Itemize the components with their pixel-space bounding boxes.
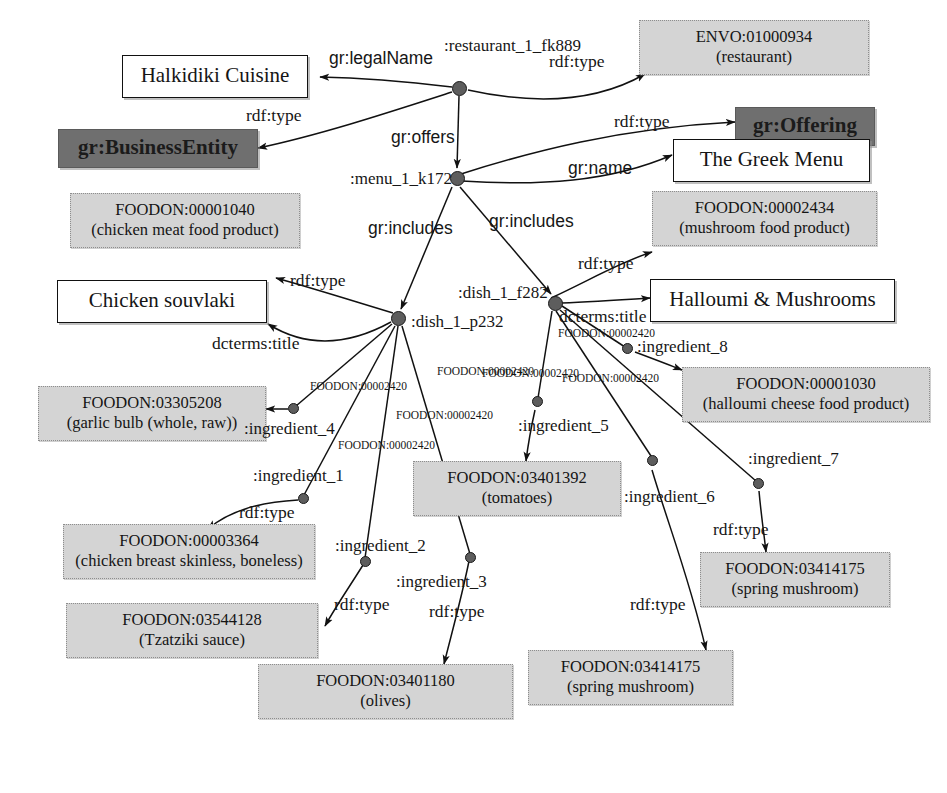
node-label-line2: (garlic bulb (whole, raw)) <box>49 413 255 433</box>
node-label-line1: Chicken souvlaki <box>72 288 252 314</box>
label-ingredient-5-id: :ingredient_5 <box>518 416 609 436</box>
label-ingredient-8-id: :ingredient_8 <box>637 337 728 357</box>
node-label-line1: FOODON:00001030 <box>693 374 919 394</box>
label-rdf-type-mushroom-product: rdf:type <box>578 253 633 274</box>
node-label-line1: FOODON:03305208 <box>49 393 255 413</box>
label-has-ingredient-f282-c: FOODON:00002420 <box>562 372 659 384</box>
bnode-menu[interactable] <box>450 171 465 186</box>
node-label-line1: ENVO:01000934 <box>650 27 858 47</box>
bnode-ingredient-5[interactable] <box>532 396 543 407</box>
label-ingredient-1-id: :ingredient_1 <box>253 466 344 486</box>
label-dcterms-title-souvlaki: dcterms:title <box>212 333 299 354</box>
edge-gr-name <box>462 155 672 183</box>
node-label-line1: FOODON:03414175 <box>711 559 879 579</box>
edge-rdf-type-restaurant <box>468 74 645 99</box>
spoke-f282-ingredient5 <box>538 311 552 398</box>
label-ingredient-4-id: :ingredient_4 <box>244 419 335 439</box>
rdf-graph-canvas: Halkidiki Cuisine ENVO:01000934 (restaur… <box>0 0 947 793</box>
node-label-line1: FOODON:03414175 <box>539 657 722 677</box>
bnode-ingredient-1[interactable] <box>298 493 309 504</box>
node-label-line1: Halloumi & Mushrooms <box>665 287 880 313</box>
node-foodon-tzatziki[interactable]: FOODON:03544128 (Tzatziki sauce) <box>66 603 318 658</box>
bnode-dish-p232[interactable] <box>391 311 406 326</box>
label-has-ingredient-p232-b: FOODON:00002420 <box>396 409 493 421</box>
node-label-line2: (mushroom food product) <box>663 218 866 238</box>
label-dcterms-title-halloumi: dcterms:title <box>559 306 646 327</box>
node-label-line1: FOODON:00001040 <box>81 200 289 220</box>
label-gr-includes-left: gr:includes <box>368 218 453 239</box>
node-label-line2: (spring mushroom) <box>711 579 879 599</box>
label-gr-includes-right: gr:includes <box>489 211 574 232</box>
label-gr-name: gr:name <box>568 158 632 179</box>
bnode-restaurant[interactable] <box>452 81 467 96</box>
node-label-line2: (olives) <box>269 691 502 711</box>
label-has-ingredient-p232-a: FOODON:00002420 <box>310 380 407 392</box>
node-halloumi-mushrooms[interactable]: Halloumi & Mushrooms <box>650 279 895 322</box>
bnode-ingredient-3[interactable] <box>465 552 476 563</box>
node-label-line2: (halloumi cheese food product) <box>693 394 919 414</box>
node-label-line1: FOODON:00003364 <box>74 531 304 551</box>
node-foodon-tomatoes[interactable]: FOODON:03401392 (tomatoes) <box>413 461 621 516</box>
node-label-line1: Halkidiki Cuisine <box>137 63 293 89</box>
edge-gr-includes-right <box>460 187 551 294</box>
label-rdf-type-ingredient-1: rdf:type <box>239 502 294 523</box>
label-rdf-type-business-entity: rdf:type <box>246 105 301 126</box>
node-label-line1: gr:BusinessEntity <box>71 135 245 161</box>
edge-dcterms-title-halloumi <box>562 298 650 303</box>
node-foodon-mushroom-product[interactable]: FOODON:00002434 (mushroom food product) <box>652 191 877 246</box>
edge-gr-legalName <box>320 77 452 87</box>
node-envo-restaurant[interactable]: ENVO:01000934 (restaurant) <box>639 20 869 75</box>
label-rdf-type-restaurant: rdf:type <box>549 51 604 72</box>
label-dish-p232-id: :dish_1_p232 <box>411 312 504 332</box>
label-rdf-type-offering: rdf:type <box>614 111 669 132</box>
node-halkidiki-cuisine[interactable]: Halkidiki Cuisine <box>122 55 308 98</box>
bnode-ingredient-6[interactable] <box>647 455 658 466</box>
node-the-greek-menu[interactable]: The Greek Menu <box>673 139 870 182</box>
node-label-line2: (tomatoes) <box>424 488 610 508</box>
node-label-line2: (chicken breast skinless, boneless) <box>74 551 304 571</box>
label-rdf-type-chicken-meat: rdf:type <box>290 270 345 291</box>
node-label-line2: (spring mushroom) <box>539 677 722 697</box>
label-rdf-type-ingredient-6: rdf:type <box>630 594 685 615</box>
label-rdf-type-ingredient-2: rdf:type <box>334 594 389 615</box>
label-ingredient-6-id: :ingredient_6 <box>624 487 715 507</box>
label-gr-offers: gr:offers <box>391 127 455 148</box>
bnode-ingredient-4[interactable] <box>288 403 299 414</box>
edge-gr-includes-left <box>401 187 452 309</box>
label-has-ingredient-f282-a: FOODON:00002420 <box>558 327 655 339</box>
node-foodon-chicken-breast[interactable]: FOODON:00003364 (chicken breast skinless… <box>63 524 315 579</box>
label-rdf-type-ingredient-3: rdf:type <box>429 601 484 622</box>
node-foodon-spring-mushroom-right[interactable]: FOODON:03414175 (spring mushroom) <box>700 552 890 607</box>
label-menu-bnode-id: :menu_1_k172 <box>350 169 452 189</box>
node-label-line1: FOODON:03401392 <box>424 468 610 488</box>
node-label-line2: (chicken meat food product) <box>81 220 289 240</box>
node-label-line1: The Greek Menu <box>688 147 855 173</box>
bnode-ingredient-7[interactable] <box>753 478 764 489</box>
label-rdf-type-ingredient-7: rdf:type <box>713 519 768 540</box>
node-label-line2: (restaurant) <box>650 47 858 67</box>
node-label-line1: FOODON:03544128 <box>77 610 307 630</box>
label-ingredient-2-id: :ingredient_2 <box>335 536 426 556</box>
node-foodon-spring-mushroom-bottom[interactable]: FOODON:03414175 (spring mushroom) <box>528 650 733 705</box>
label-ingredient-3-id: :ingredient_3 <box>396 572 487 592</box>
node-label-line1: FOODON:00002434 <box>663 198 866 218</box>
label-has-ingredient-p232-c: FOODON:00002420 <box>338 439 435 451</box>
label-gr-legalName: gr:legalName <box>329 48 433 69</box>
spoke-p232-ingredient4 <box>296 324 392 406</box>
node-label-line2: (Tzatziki sauce) <box>77 630 307 650</box>
node-label-line1: FOODON:03401180 <box>269 671 502 691</box>
node-foodon-garlic-bulb[interactable]: FOODON:03305208 (garlic bulb (whole, raw… <box>38 386 266 441</box>
bnode-ingredient-2[interactable] <box>360 556 371 567</box>
label-ingredient-7-id: :ingredient_7 <box>748 449 839 469</box>
node-chicken-souvlaki[interactable]: Chicken souvlaki <box>57 280 267 323</box>
edge-gr-offers <box>457 96 459 168</box>
node-foodon-chicken-meat[interactable]: FOODON:00001040 (chicken meat food produ… <box>70 193 300 248</box>
node-foodon-halloumi-cheese[interactable]: FOODON:00001030 (halloumi cheese food pr… <box>682 367 930 422</box>
node-label-line1: gr:Offering <box>748 113 862 139</box>
node-foodon-olives[interactable]: FOODON:03401180 (olives) <box>258 664 513 719</box>
label-dish-f282-id: :dish_1_f282 <box>458 283 548 303</box>
bnode-ingredient-8[interactable] <box>622 343 633 354</box>
node-gr-business-entity[interactable]: gr:BusinessEntity <box>58 129 258 168</box>
